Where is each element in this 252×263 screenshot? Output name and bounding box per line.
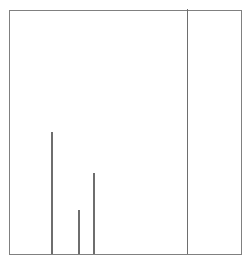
screenshot-root: [0, 0, 252, 263]
stem-s3: [93, 173, 95, 254]
stem-s4: [187, 9, 189, 254]
plot-area: [10, 11, 241, 254]
plot-frame: [9, 10, 242, 255]
stem-s1: [51, 132, 53, 254]
stem-s2: [78, 210, 80, 254]
